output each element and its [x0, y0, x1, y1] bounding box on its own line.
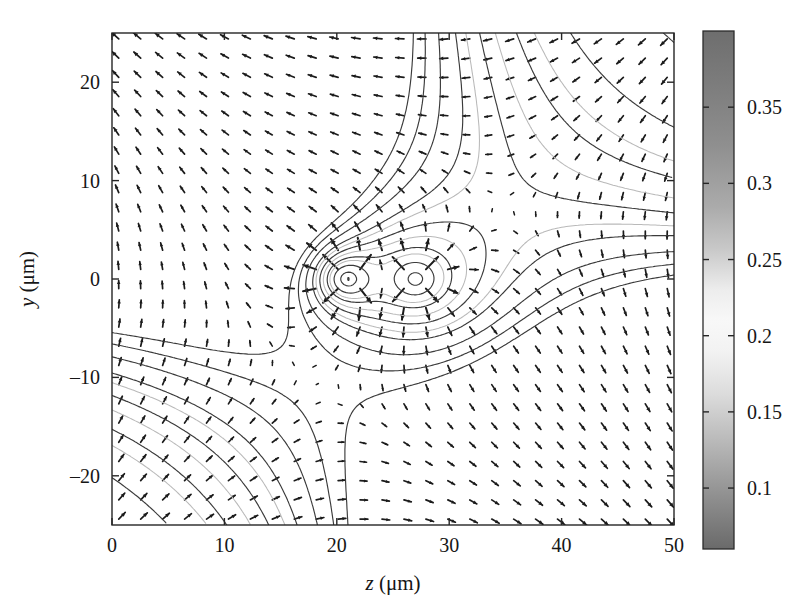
- x-tick-label: 50: [664, 534, 684, 556]
- y-tick-label: –20: [69, 465, 100, 487]
- colorbar-tick-label: 0.25: [747, 249, 782, 271]
- y-tick-label: –10: [69, 366, 100, 388]
- y-tick-label: 10: [80, 170, 100, 192]
- y-tick-label: 20: [80, 71, 100, 93]
- y-tick-label: 0: [90, 268, 100, 290]
- colorbar-tick-label: 0.2: [747, 325, 772, 347]
- quiver-arrow: [492, 209, 493, 212]
- quiver-arrow: [316, 384, 318, 385]
- colorbar-tick-label: 0.1: [747, 477, 772, 499]
- arrow-shaft: [338, 385, 339, 389]
- x-tick-label: 40: [552, 534, 572, 556]
- colorbar-tick-label: 0.3: [747, 172, 772, 194]
- x-tick-label: 0: [107, 534, 117, 556]
- colorbar-tick-label: 0.15: [747, 401, 782, 423]
- y-axis-var: y: [15, 297, 39, 309]
- figure-container: 0102030405020100–10–20 z (μm) y (μm) 0.3…: [0, 0, 807, 613]
- plot-background: [112, 33, 674, 525]
- x-axis-title: z (μm): [364, 571, 420, 595]
- quiver-contour-plot: 0102030405020100–10–20 z (μm) y (μm) 0.3…: [0, 0, 807, 613]
- y-axis-unit: (μm): [15, 251, 39, 298]
- arrow-shaft: [316, 384, 318, 385]
- x-tick-label: 30: [439, 534, 459, 556]
- colorbar-tick-label: 0.35: [747, 96, 782, 118]
- colorbar-gradient: [703, 31, 734, 549]
- quiver-arrow: [338, 385, 339, 389]
- y-axis-title: y (μm): [15, 251, 39, 309]
- arrow-shaft: [492, 209, 493, 212]
- x-tick-label: 20: [327, 534, 347, 556]
- quiver-arrow: [514, 212, 515, 215]
- arrow-shaft: [514, 212, 515, 215]
- x-tick-label: 10: [214, 534, 234, 556]
- x-axis-unit: (μm): [374, 571, 421, 595]
- x-axis-var: z: [364, 571, 373, 595]
